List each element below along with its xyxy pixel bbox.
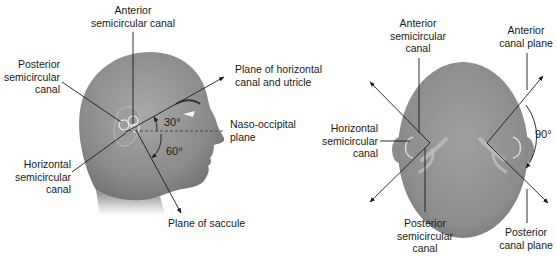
label-line: Anterior xyxy=(495,24,557,37)
top-view-head xyxy=(392,62,534,238)
label-line: canal xyxy=(0,83,60,96)
angle-30: 30° xyxy=(164,116,181,128)
label-posterior-semicircular-canal: Posterior semicircular canal xyxy=(0,58,60,96)
label-line: Posterior xyxy=(495,226,557,239)
label-plane-of-saccule: Plane of saccule xyxy=(168,217,245,230)
label-naso-occipital-plane: Naso-occipital plane xyxy=(230,118,296,143)
label-line: semicircular xyxy=(390,230,460,243)
label-line: canal xyxy=(390,242,460,255)
label-line: semicircular xyxy=(383,30,453,43)
label-line: canal xyxy=(383,42,453,55)
label-line: semicircular xyxy=(0,171,71,184)
label-line: canal xyxy=(310,147,378,160)
label-line: canal and utricle xyxy=(235,76,322,89)
label-line: Plane of horizontal xyxy=(235,63,322,76)
label-horizontal-semicircular-canal: Horizontal semicircular canal xyxy=(0,158,71,196)
angle-90: 90° xyxy=(535,128,552,140)
label-line: semicircular canal xyxy=(88,17,178,30)
side-view-head xyxy=(79,52,224,215)
label-top-horizontal-semicircular-canal: Horizontal semicircular canal xyxy=(310,122,378,160)
label-line: semicircular xyxy=(0,71,60,84)
label-line: Horizontal xyxy=(0,158,71,171)
label-line: Anterior xyxy=(88,4,178,17)
label-line: Horizontal xyxy=(310,122,378,135)
label-line: canal plane xyxy=(495,239,557,252)
label-line: canal plane xyxy=(495,37,557,50)
label-line: Posterior xyxy=(0,58,60,71)
label-anterior-semicircular-canal: Anterior semicircular canal xyxy=(88,4,178,29)
label-line: plane xyxy=(230,131,296,144)
label-posterior-canal-plane: Posterior canal plane xyxy=(495,226,557,251)
label-top-posterior-semicircular-canal: Posterior semicircular canal xyxy=(390,217,460,255)
label-line: Posterior xyxy=(390,217,460,230)
label-anterior-canal-plane: Anterior canal plane xyxy=(495,24,557,49)
label-plane-horizontal-canal-utricle: Plane of horizontal canal and utricle xyxy=(235,63,322,88)
label-top-anterior-semicircular-canal: Anterior semicircular canal xyxy=(383,17,453,55)
label-line: Naso-occipital xyxy=(230,118,296,131)
label-line: canal xyxy=(0,183,71,196)
label-line: semicircular xyxy=(310,135,378,148)
angle-60: 60° xyxy=(166,145,183,157)
label-line: Anterior xyxy=(383,17,453,30)
